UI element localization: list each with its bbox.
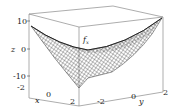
z-tick-10: 10 (17, 17, 27, 26)
surface-label: fx (82, 35, 89, 45)
y-tick-2: 2 (163, 88, 168, 97)
x-axis-label: x (35, 96, 40, 105)
surface-plot: fx 10 0 -10 z -2 0 2 x -2 0 2 y (0, 0, 173, 110)
y-tick-neg2: -2 (97, 97, 105, 106)
z-tick-0: 0 (21, 45, 26, 54)
x-tick-0: 0 (46, 90, 51, 99)
y-tick-0: 0 (131, 92, 136, 101)
z-tick-neg10: -10 (13, 72, 26, 81)
y-axis: -2 0 2 y (97, 88, 168, 106)
x-tick-2: 2 (70, 97, 75, 106)
mesh-surface (31, 18, 162, 88)
y-axis-label: y (138, 97, 144, 106)
x-axis: -2 0 2 x (17, 83, 75, 106)
z-axis-label: z (10, 45, 16, 54)
x-tick-neg2: -2 (17, 83, 25, 92)
z-axis: 10 0 -10 z (10, 17, 30, 81)
